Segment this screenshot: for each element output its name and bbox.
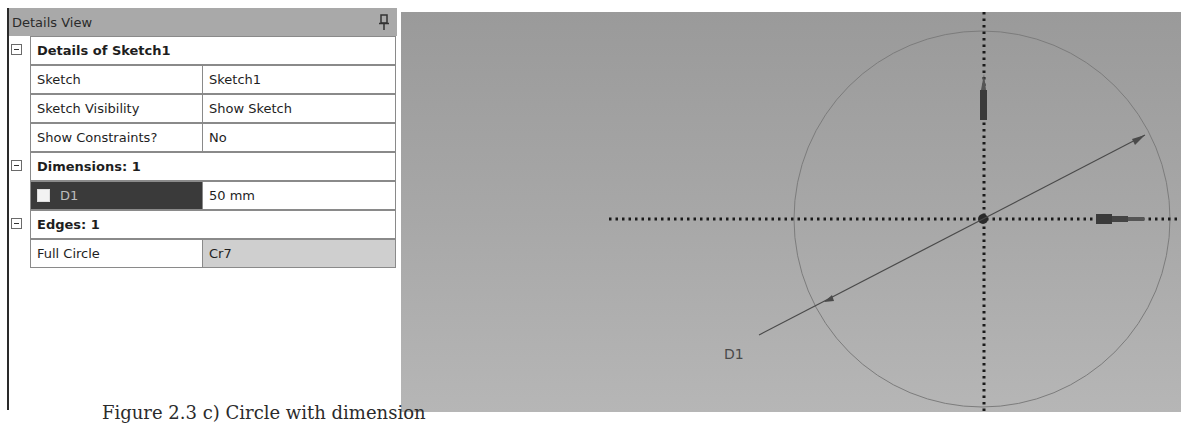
property-row-d1[interactable]: D1 50 mm [31, 182, 397, 211]
group-label: Details of Sketch1 [30, 36, 396, 65]
property-key: Sketch Visibility [30, 94, 203, 123]
details-view-header: Details View [9, 8, 397, 36]
group-row-details-of-sketch[interactable]: Details of Sketch1 [31, 37, 397, 66]
collapse-icon[interactable] [11, 160, 22, 171]
figure-caption: Figure 2.3 c) Circle with dimension [102, 402, 426, 424]
property-value: Cr7 [202, 239, 396, 268]
sketch-canvas[interactable]: D1 [401, 12, 1181, 412]
dimension-value-field[interactable]: 50 mm [202, 181, 396, 210]
group-label: Dimensions: 1 [30, 152, 396, 181]
y-axis-triad-arrow-icon [980, 74, 987, 120]
property-row-full-circle[interactable]: Full Circle Cr7 [31, 240, 397, 269]
property-value[interactable]: No [202, 123, 396, 152]
pushpin-icon[interactable] [379, 14, 389, 30]
collapse-icon[interactable] [11, 44, 22, 55]
property-key: Full Circle [30, 239, 203, 268]
dimension-arrowhead-icon [824, 295, 834, 302]
details-view-title: Details View [12, 15, 92, 30]
property-key: Sketch [30, 65, 203, 94]
graphics-viewport[interactable]: D1 [401, 12, 1181, 412]
property-row-sketch-visibility[interactable]: Sketch Visibility Show Sketch [31, 95, 397, 124]
dimension-arrowhead-icon [1132, 135, 1145, 145]
diameter-dimension-line[interactable] [759, 135, 1145, 335]
group-label: Edges: 1 [30, 210, 396, 239]
group-row-edges[interactable]: Edges: 1 [31, 211, 397, 240]
property-key: Show Constraints? [30, 123, 203, 152]
dimension-label[interactable]: D1 [724, 346, 744, 362]
property-value[interactable]: Show Sketch [202, 94, 396, 123]
x-axis-triad-arrow-icon [1096, 214, 1144, 224]
property-key-selected[interactable]: D1 [30, 181, 203, 210]
property-row-show-constraints[interactable]: Show Constraints? No [31, 124, 397, 153]
details-grid: Details of Sketch1 Sketch Sketch1 Sketch… [31, 37, 397, 269]
property-row-sketch[interactable]: Sketch Sketch1 [31, 66, 397, 95]
collapse-icon[interactable] [11, 218, 22, 229]
dimension-name: D1 [60, 188, 78, 203]
parameter-checkbox[interactable] [37, 189, 50, 202]
details-view-panel: Details View Details of Sketch1 Sketch S… [9, 8, 397, 408]
group-row-dimensions[interactable]: Dimensions: 1 [31, 153, 397, 182]
property-value[interactable]: Sketch1 [202, 65, 396, 94]
